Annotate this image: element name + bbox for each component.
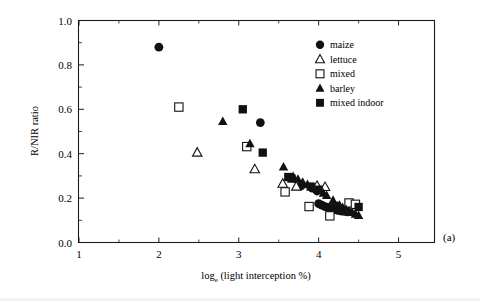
y-axis-ticks — [79, 21, 84, 243]
data-point-open-square — [175, 103, 183, 111]
data-point-open-triangle — [250, 164, 259, 173]
x-axis-title-rest: (light interception %) — [218, 270, 312, 282]
y-tick-label: 1.0 — [58, 15, 72, 27]
data-point-filled-triangle — [316, 84, 325, 92]
data-point-filled-circle — [256, 118, 265, 127]
legend-label: mixed indoor — [330, 97, 384, 108]
data-point-open-triangle — [193, 148, 202, 157]
plot-frame — [79, 21, 435, 243]
x-tick-label: 5 — [396, 248, 402, 260]
data-point-filled-square — [315, 186, 323, 194]
y-tick-label: 0.2 — [58, 192, 72, 204]
data-point-open-square — [281, 188, 289, 196]
data-point-filled-square — [239, 105, 247, 113]
data-point-filled-square — [332, 202, 340, 210]
data-point-filled-circle — [316, 41, 324, 49]
figure-panel-a: 12345 0.00.20.40.60.81.0 maizelettucemix… — [0, 0, 480, 301]
legend-label: barley — [330, 83, 355, 94]
legend-label: lettuce — [330, 54, 357, 65]
panel-label: (a) — [443, 231, 456, 244]
x-axis-title: loge (light interception %) — [201, 270, 311, 284]
x-axis-tick-labels: 12345 — [76, 248, 402, 260]
y-tick-label: 0.8 — [58, 59, 72, 71]
legend: maizelettucemixedbarleymixed indoor — [316, 39, 385, 108]
data-point-filled-triangle — [279, 162, 288, 171]
x-axis-title-main: log — [201, 270, 215, 281]
data-point-filled-square — [287, 174, 295, 182]
y-tick-label: 0.4 — [58, 148, 72, 160]
x-tick-label: 1 — [76, 248, 82, 260]
data-point-filled-square — [354, 203, 362, 211]
data-point-filled-square — [259, 148, 267, 156]
y-axis-title: R/NIR ratio — [29, 106, 40, 156]
x-tick-label: 2 — [156, 248, 162, 260]
data-point-open-triangle — [316, 55, 325, 63]
x-tick-label: 4 — [316, 248, 322, 260]
data-point-open-square — [305, 202, 313, 210]
data-point-filled-square — [307, 182, 315, 190]
y-tick-label: 0.0 — [58, 237, 72, 249]
data-point-filled-square — [316, 99, 324, 107]
data-point-filled-triangle — [218, 117, 227, 126]
legend-label: mixed — [330, 68, 355, 79]
data-point-open-square — [326, 212, 334, 220]
x-tick-label: 3 — [236, 248, 242, 260]
data-point-open-square — [316, 70, 324, 78]
scatter-plot: 12345 0.00.20.40.60.81.0 maizelettucemix… — [0, 0, 480, 301]
series-barley — [218, 117, 363, 219]
y-axis-tick-labels: 0.00.20.40.60.81.0 — [58, 15, 72, 249]
legend-label: maize — [330, 39, 354, 50]
y-tick-label: 0.6 — [58, 103, 72, 115]
data-point-filled-circle — [154, 43, 163, 52]
